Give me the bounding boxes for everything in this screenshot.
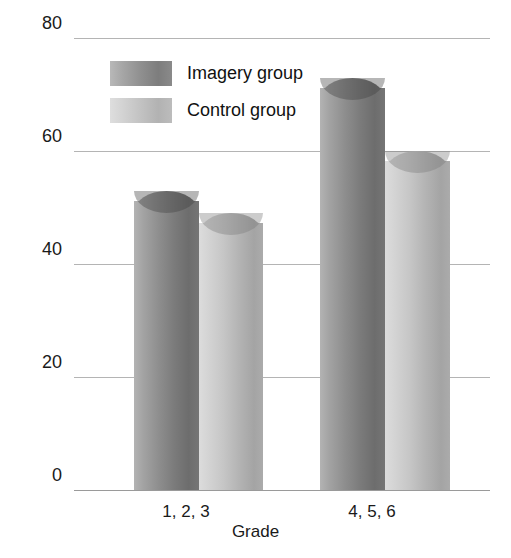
legend-item-imagery-group[interactable]: Imagery group: [110, 60, 303, 86]
gridline-80: [74, 38, 490, 39]
x-axis-title: Grade: [0, 522, 511, 542]
bar-imagery-grades-1-2-3[interactable]: [134, 191, 199, 490]
x-tick-label-grades-4-5-6: 4, 5, 6: [292, 502, 452, 522]
legend-label-control-group: Control group: [187, 100, 296, 121]
y-tick-label-0: 0: [52, 466, 62, 484]
legend: Imagery group Control group: [110, 60, 303, 134]
y-tick-label-40: 40: [42, 240, 62, 258]
legend-swatch-control-icon: [110, 98, 172, 123]
axis-baseline: [74, 490, 490, 491]
bar-body: [320, 88, 385, 490]
legend-label-imagery-group: Imagery group: [187, 63, 303, 84]
legend-swatch-imagery-icon: [110, 61, 172, 86]
y-tick-label-20: 20: [42, 353, 62, 371]
y-tick-label-60: 60: [42, 127, 62, 145]
bar-control-grades-4-5-6[interactable]: [385, 151, 450, 490]
bar-chart-figure: Mean percent of material remembered 80 6…: [0, 0, 511, 558]
legend-item-control-group[interactable]: Control group: [110, 97, 303, 123]
bar-body: [199, 223, 263, 490]
bar-imagery-grades-4-5-6[interactable]: [320, 78, 385, 490]
bar-body: [134, 201, 199, 490]
y-tick-label-80: 80: [42, 14, 62, 32]
bar-body: [385, 161, 450, 490]
bar-control-grades-1-2-3[interactable]: [199, 213, 263, 490]
x-tick-label-grades-1-2-3: 1, 2, 3: [106, 502, 266, 522]
